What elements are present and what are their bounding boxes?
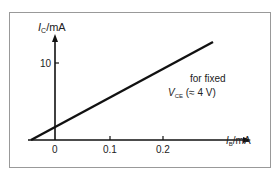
annotation-line1: for fixed [190,73,226,84]
chart: IC/mA 10 0 0.1 0.2 IB/mA for fixed VCE (… [0,0,278,175]
tick-label-x2: 0.2 [156,144,170,155]
tick-label-x0: 0 [52,144,58,155]
tick-label-x1: 0.1 [103,144,117,155]
tick-label-y10: 10 [40,58,52,69]
